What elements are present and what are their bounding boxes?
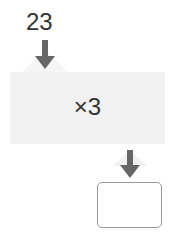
output-arrow-icon (105, 144, 155, 180)
input-arrow-icon (20, 40, 70, 74)
input-number: 23 (26, 8, 53, 36)
result-answer-box[interactable] (97, 182, 162, 228)
operation-label: ×3 (10, 92, 165, 122)
